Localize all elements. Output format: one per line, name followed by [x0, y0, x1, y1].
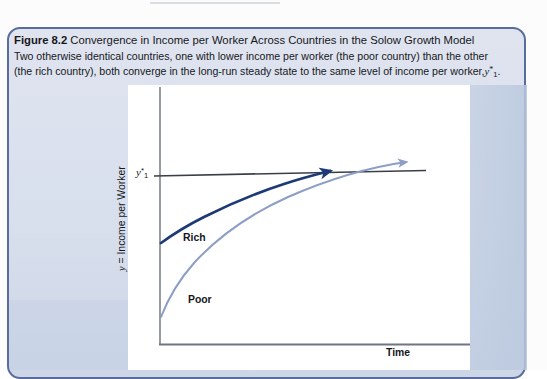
caption-period: .: [497, 65, 500, 77]
y-axis-label-var: y: [116, 266, 127, 271]
curve-label-poor: Poor: [188, 294, 212, 305]
y-axis-label-rest: = Income per Worker: [116, 166, 127, 266]
caption-math-var-y: y*1: [485, 66, 498, 77]
y-axis-label-inner: y = Income per Worker: [116, 91, 127, 271]
figure-caption-line-2: (the rich country), both converge in the…: [14, 63, 519, 81]
curve-label-rich: Rich: [183, 232, 206, 243]
x-axis-label: Time: [386, 347, 410, 358]
figure-title: Figure 8.2Convergence in Income per Work…: [14, 33, 519, 48]
chart-plot-panel: y = Income per Worker y*1 Rich Poor Time: [128, 85, 470, 370]
y-axis-label: y = Income per Worker: [116, 0, 130, 93]
figure-number: Figure 8.2: [14, 34, 67, 46]
figure-title-text: Convergence in Income per Worker Across …: [70, 34, 474, 46]
figure-caption-block: Figure 8.2Convergence in Income per Work…: [14, 33, 519, 82]
scan-artifact-line: [150, 2, 280, 4]
figure-caption-line-1: Two otherwise identical countries, one w…: [14, 50, 519, 63]
steady-state-line: [154, 171, 426, 177]
chart-svg: [128, 85, 470, 370]
caption-line-2-text: (the rich country), both converge in the…: [14, 65, 485, 77]
